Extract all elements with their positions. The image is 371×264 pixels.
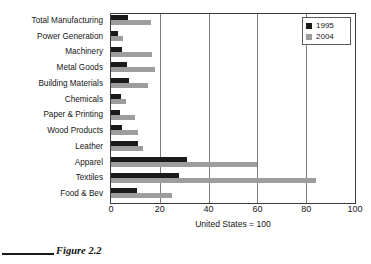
bar-2004 [111, 193, 172, 198]
bar-1995 [111, 47, 122, 52]
x-tick-label: 20 [155, 204, 165, 214]
category-label: Building Materials [38, 79, 103, 89]
bar-1995 [111, 31, 118, 36]
bar-2004 [111, 67, 155, 72]
bar-row [111, 124, 355, 140]
x-tick-label: 80 [301, 204, 311, 214]
bar-2004 [111, 36, 123, 41]
bar-row [111, 61, 355, 77]
bar-1995 [111, 78, 129, 83]
bar-2004 [111, 115, 135, 120]
x-tick-label: 40 [204, 204, 214, 214]
bar-1995 [111, 62, 127, 67]
category-label: Leather [75, 142, 103, 152]
bar-1995 [111, 188, 137, 193]
bar-1995 [111, 141, 138, 146]
category-label: Food & Bev [60, 189, 103, 199]
legend-swatch-icon [306, 34, 312, 40]
bar-1995 [111, 15, 128, 20]
bar-1995 [111, 94, 121, 99]
figure-container: Total ManufacturingPower GenerationMachi… [0, 0, 371, 264]
bar-1995 [111, 157, 187, 162]
bar-row [111, 187, 355, 203]
bar-2004 [111, 99, 126, 104]
category-axis-labels: Total ManufacturingPower GenerationMachi… [0, 13, 107, 204]
bar-2004 [111, 162, 257, 167]
category-label: Power Generation [37, 32, 103, 42]
bar-row [111, 156, 355, 172]
legend-item: 2004 [306, 31, 347, 42]
bar-row [111, 172, 355, 188]
caption-text: Figure 2.2 [56, 245, 102, 256]
bar-2004 [111, 146, 143, 151]
category-label: Paper & Printing [43, 110, 103, 120]
bar-1995 [111, 173, 179, 178]
bar-2004 [111, 20, 151, 25]
bar-2004 [111, 52, 152, 57]
bar-2004 [111, 130, 138, 135]
category-label: Chemicals [65, 95, 103, 105]
category-label: Metal Goods [57, 63, 103, 73]
bar-1995 [111, 125, 122, 130]
x-tick-label: 100 [347, 204, 362, 214]
x-tick-label: 0 [108, 204, 113, 214]
bar-row [111, 140, 355, 156]
category-label: Machinery [65, 47, 103, 57]
caption-rule [2, 253, 54, 255]
legend-item: 1995 [306, 20, 347, 31]
bar-1995 [111, 110, 120, 115]
bar-row [111, 109, 355, 125]
bar-2004 [111, 83, 148, 88]
figure-caption: Figure 2.2 [0, 243, 371, 264]
legend-label: 2004 [316, 32, 334, 42]
bar-row [111, 46, 355, 62]
category-label: Total Manufacturing [32, 16, 103, 26]
bar-2004 [111, 178, 316, 183]
legend-label: 1995 [316, 21, 334, 31]
x-axis-title: United States = 100 [110, 219, 356, 229]
legend-swatch-icon [306, 23, 312, 29]
x-tick-label: 60 [252, 204, 262, 214]
x-axis-tick-labels: 020406080100 [0, 204, 371, 218]
bar-row [111, 93, 355, 109]
category-label: Textiles [76, 173, 103, 183]
category-label: Wood Products [47, 126, 103, 136]
bar-row [111, 77, 355, 93]
chart-legend: 19952004 [302, 17, 351, 45]
category-label: Apparel [75, 158, 103, 168]
